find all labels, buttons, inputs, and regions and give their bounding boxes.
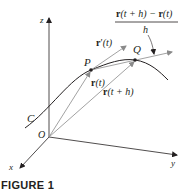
- vector-r-t-plus-h: [49, 62, 134, 137]
- curve-c: [25, 60, 168, 128]
- curve-label: C: [27, 112, 35, 124]
- figure-caption: FIGURE 1: [1, 179, 54, 191]
- y-axis: [49, 137, 177, 155]
- label-r-t-plus-h: r(t + h): [103, 86, 134, 98]
- label-pointer: [148, 35, 154, 54]
- y-axis-label: y: [170, 158, 175, 168]
- x-axis: [20, 137, 49, 168]
- vector-difference-quotient: [91, 52, 172, 70]
- vector-r-t: [49, 72, 90, 137]
- label-r-prime-t: r′(t): [96, 37, 113, 49]
- figure-1-diagram: z x y O C P Q r(t) r(t + h) r′(t) r(t + …: [0, 0, 193, 195]
- fraction-denominator: h: [143, 24, 148, 35]
- fraction-numerator: r(t + h) − r(t): [116, 8, 173, 20]
- z-axis-label: z: [39, 15, 44, 25]
- x-axis-label: x: [8, 162, 13, 172]
- point-p: [89, 68, 93, 72]
- point-q: [133, 58, 137, 62]
- origin-label: O: [38, 129, 45, 140]
- point-p-label: P: [83, 56, 91, 68]
- point-q-label: Q: [133, 43, 141, 55]
